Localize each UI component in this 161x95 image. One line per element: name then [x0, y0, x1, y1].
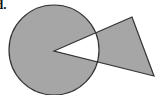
geometry-diagram — [0, 0, 161, 95]
